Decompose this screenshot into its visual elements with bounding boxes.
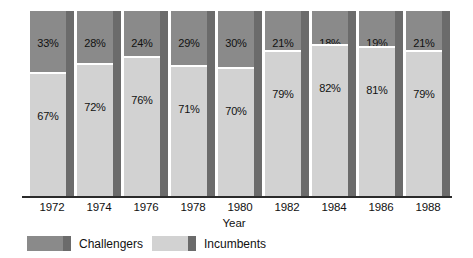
bar-value-label-incumbents: 82% [312, 82, 348, 94]
bar-front: 21% 79% [406, 11, 442, 197]
x-axis-tick-1984: 1984 [308, 200, 360, 214]
bar-group-1974[interactable]: 28% 72% [77, 11, 121, 197]
bar-segment-challengers[interactable]: 30% [218, 11, 254, 67]
legend-label-incumbents: Incumbents [204, 236, 266, 252]
legend-swatch-incumbents [152, 236, 196, 251]
bar-segment-incumbents[interactable]: 79% [265, 50, 301, 197]
bar-side-shadow [395, 11, 403, 197]
bar-segment-incumbents[interactable]: 82% [312, 44, 348, 197]
x-axis-line [22, 196, 452, 198]
legend-swatch-side [188, 236, 196, 251]
bar-segment-challengers[interactable]: 28% [77, 11, 113, 63]
bar-side-shadow [113, 11, 121, 197]
bar-side-shadow [254, 11, 262, 197]
bar-segment-challengers[interactable]: 29% [171, 11, 207, 65]
bar-front: 30% 70% [218, 11, 254, 197]
bar-segment-incumbents[interactable]: 81% [359, 46, 395, 197]
bar-segment-incumbents[interactable]: 70% [218, 67, 254, 197]
legend-label-challengers: Challengers [79, 236, 143, 252]
bar-segment-incumbents[interactable]: 67% [30, 72, 66, 197]
bar-value-label-challengers: 21% [265, 37, 301, 49]
bar-group-1984[interactable]: 18% 82% [312, 11, 356, 197]
bar-group-1988[interactable]: 21% 79% [406, 11, 450, 197]
bar-front: 24% 76% [124, 11, 160, 197]
plot-area: 33% 67% 28% 72% [0, 0, 473, 197]
bar-value-label-incumbents: 72% [77, 101, 113, 113]
bar-group-1986[interactable]: 19% 81% [359, 11, 403, 197]
x-axis-title: Year [204, 216, 264, 230]
bar-value-label-challengers: 24% [124, 37, 160, 49]
bar-segment-challengers[interactable]: 33% [30, 11, 66, 72]
bar-front: 33% 67% [30, 11, 66, 197]
bar-front: 18% 82% [312, 11, 348, 197]
bar-segment-incumbents[interactable]: 72% [77, 63, 113, 197]
bar-side-shadow [66, 11, 74, 197]
x-axis-tick-1988: 1988 [402, 200, 454, 214]
stacked-bar-chart: 33% 67% 28% 72% [0, 0, 473, 258]
legend-swatch-front [27, 236, 63, 251]
bar-value-label-incumbents: 70% [218, 105, 254, 117]
x-axis-tick-1982: 1982 [261, 200, 313, 214]
bar-segment-challengers[interactable]: 18% [312, 11, 348, 44]
bar-segment-incumbents[interactable]: 71% [171, 65, 207, 197]
bar-side-shadow [348, 11, 356, 197]
bar-group-1980[interactable]: 30% 70% [218, 11, 262, 197]
bar-value-label-challengers: 33% [30, 37, 66, 49]
bar-value-label-incumbents: 76% [124, 94, 160, 106]
bar-value-label-incumbents: 79% [265, 88, 301, 100]
bar-segment-challengers[interactable]: 24% [124, 11, 160, 56]
bar-side-shadow [160, 11, 168, 197]
bar-side-shadow [301, 11, 309, 197]
bar-group-1976[interactable]: 24% 76% [124, 11, 168, 197]
bar-segment-challengers[interactable]: 19% [359, 11, 395, 46]
bar-segment-incumbents[interactable]: 76% [124, 56, 160, 197]
bar-value-label-challengers: 21% [406, 37, 442, 49]
bar-value-label-challengers: 28% [77, 37, 113, 49]
bar-segment-incumbents[interactable]: 79% [406, 50, 442, 197]
bar-value-label-incumbents: 67% [30, 110, 66, 122]
bar-segment-challengers[interactable]: 21% [265, 11, 301, 50]
bar-group-1972[interactable]: 33% 67% [30, 11, 74, 197]
bar-value-label-incumbents: 79% [406, 88, 442, 100]
bar-value-label-challengers: 30% [218, 37, 254, 49]
bar-side-shadow [442, 11, 450, 197]
bar-side-shadow [207, 11, 215, 197]
x-axis-tick-1986: 1986 [355, 200, 407, 214]
bar-value-label-incumbents: 71% [171, 103, 207, 115]
bar-front: 29% 71% [171, 11, 207, 197]
bar-front: 28% 72% [77, 11, 113, 197]
legend-swatch-side [63, 236, 71, 251]
legend: Challengers Incumbents [0, 234, 473, 256]
bar-value-label-challengers: 29% [171, 37, 207, 49]
legend-swatch-front [152, 236, 188, 251]
bar-front: 19% 81% [359, 11, 395, 197]
x-axis-tick-1980: 1980 [214, 200, 266, 214]
bar-group-1982[interactable]: 21% 79% [265, 11, 309, 197]
bar-front: 21% 79% [265, 11, 301, 197]
bar-segment-challengers[interactable]: 21% [406, 11, 442, 50]
bar-group-1978[interactable]: 29% 71% [171, 11, 215, 197]
x-axis-tick-1974: 1974 [73, 200, 125, 214]
legend-swatch-challengers [27, 236, 71, 251]
x-axis-tick-1978: 1978 [167, 200, 219, 214]
bar-value-label-incumbents: 81% [359, 84, 395, 96]
x-axis-tick-1976: 1976 [120, 200, 172, 214]
x-axis-tick-1972: 1972 [26, 200, 78, 214]
